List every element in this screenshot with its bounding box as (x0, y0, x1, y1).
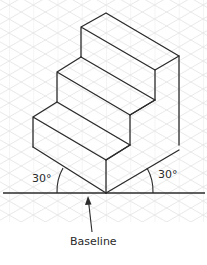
left-angle-label: 30° (32, 172, 52, 185)
isometric-diagram: 30° 30° Baseline (0, 0, 207, 265)
diagram-canvas: 30° 30° Baseline (0, 0, 207, 265)
baseline-label: Baseline (70, 235, 117, 248)
isometric-grid (0, 0, 207, 222)
right-angle-label: 30° (158, 168, 178, 181)
